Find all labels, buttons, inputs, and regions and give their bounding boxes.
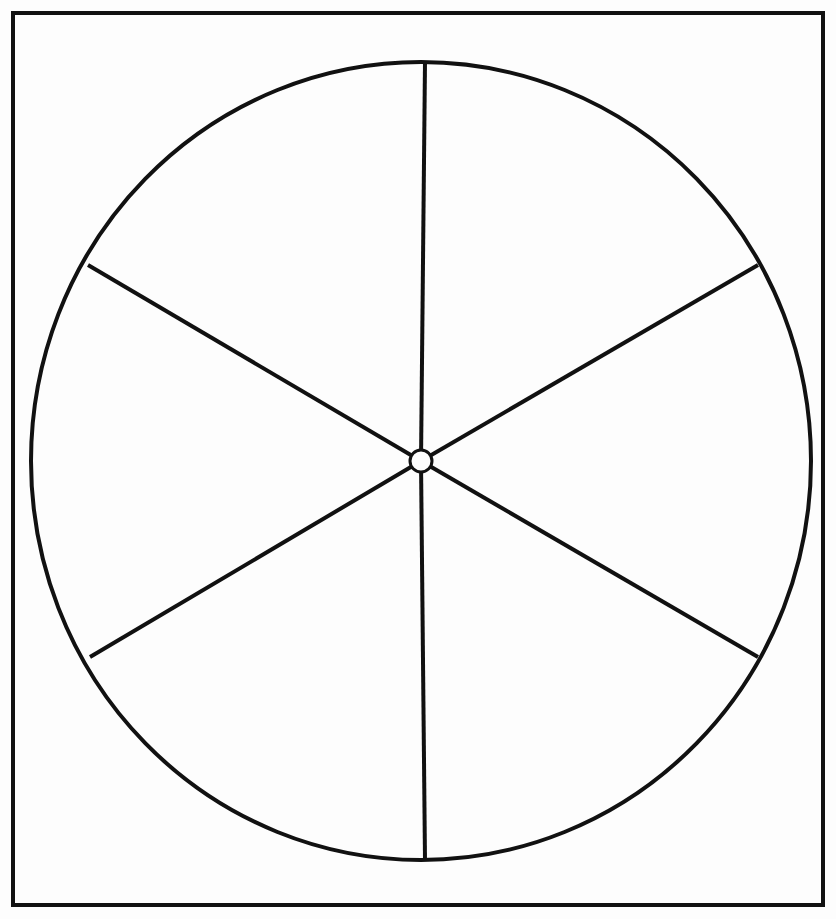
spoke-lower-left [90,461,421,657]
spoke-bottom [421,461,425,860]
spoke-top [421,62,425,461]
spoke-upper-left [88,265,421,461]
wheel-hub [410,450,432,472]
spoke-lower-right [421,461,758,657]
spoke-upper-right [421,265,758,461]
wheel-diagram-svg [0,0,836,919]
diagram-canvas [0,0,836,919]
